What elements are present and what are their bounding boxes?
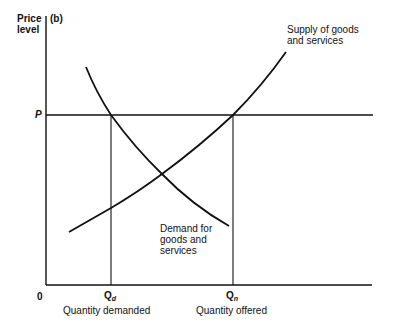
supply-curve [69, 52, 286, 232]
origin-label: 0 [37, 291, 43, 302]
panel-label: (b) [50, 13, 63, 24]
qd-label-sub: d [112, 295, 116, 302]
supply-curve-label: Supply of goods and services [287, 24, 359, 46]
demand-label-line2: goods and [160, 234, 212, 245]
y-axis-label: Price level [17, 13, 41, 35]
y-axis-label-line2: level [17, 24, 41, 35]
price-label-p: P [35, 109, 42, 120]
demand-label-line1: Demand for [160, 223, 212, 234]
y-axis-label-line1: Price [17, 13, 41, 24]
qd-label-main: Q [104, 290, 112, 301]
qd-caption: Quantity demanded [63, 305, 150, 316]
demand-curve [86, 67, 229, 226]
supply-label-line1: Supply of goods [287, 24, 359, 35]
demand-curve-label: Demand for goods and services [160, 223, 212, 256]
qn-label-sub: n [234, 295, 238, 302]
price-quantity-diagram [0, 0, 393, 332]
demand-label-line3: services [160, 245, 212, 256]
qd-label: Qd [104, 290, 116, 304]
qn-label: Qn [226, 290, 238, 304]
supply-label-line2: and services [287, 35, 359, 46]
qn-label-main: Q [226, 290, 234, 301]
qn-caption: Quantity offered [196, 305, 267, 316]
